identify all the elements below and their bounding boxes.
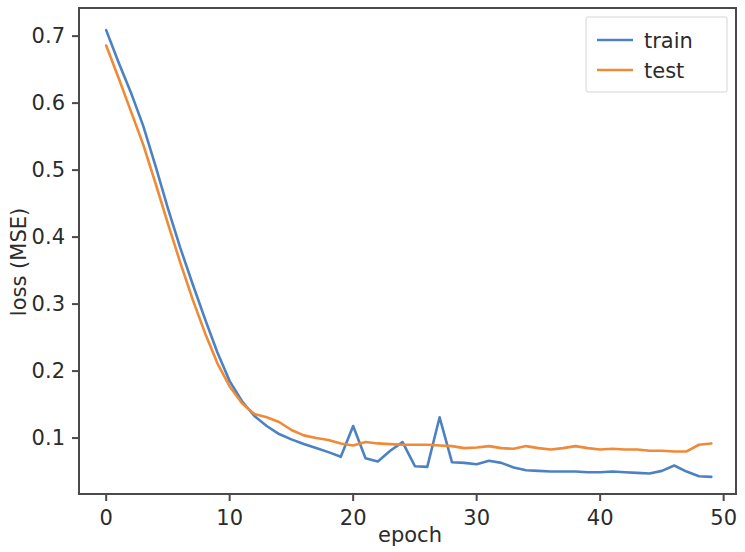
series-line-test bbox=[106, 46, 711, 452]
y-tick-label: 0.3 bbox=[32, 292, 65, 316]
y-tick-label: 0.7 bbox=[32, 24, 65, 48]
x-tick-label: 10 bbox=[216, 506, 243, 530]
x-tick-label: 50 bbox=[710, 506, 737, 530]
data-series-group bbox=[106, 30, 711, 477]
y-tick-label: 0.6 bbox=[32, 91, 65, 115]
y-tick-label: 0.5 bbox=[32, 158, 65, 182]
x-tick-label: 40 bbox=[587, 506, 614, 530]
y-tick-label: 0.2 bbox=[32, 359, 65, 383]
x-tick-label: 30 bbox=[463, 506, 490, 530]
x-tick-label: 0 bbox=[99, 506, 112, 530]
legend-label-train: train bbox=[644, 29, 693, 53]
y-tick-label: 0.1 bbox=[32, 426, 65, 450]
tick-labels: 010203040500.10.20.30.40.50.60.7 bbox=[32, 24, 737, 530]
x-axis-title: epoch bbox=[378, 523, 442, 547]
chart-legend: traintest bbox=[586, 17, 727, 92]
loss-curve-chart: 010203040500.10.20.30.40.50.60.7 trainte… bbox=[0, 0, 745, 552]
matplotlib-figure: 010203040500.10.20.30.40.50.60.7 trainte… bbox=[0, 0, 745, 552]
tick-marks bbox=[72, 36, 724, 501]
y-axis-title: loss (MSE) bbox=[7, 208, 31, 316]
series-line-train bbox=[106, 30, 711, 477]
y-tick-label: 0.4 bbox=[32, 225, 65, 249]
legend-label-test: test bbox=[644, 59, 684, 83]
x-tick-label: 20 bbox=[340, 506, 367, 530]
